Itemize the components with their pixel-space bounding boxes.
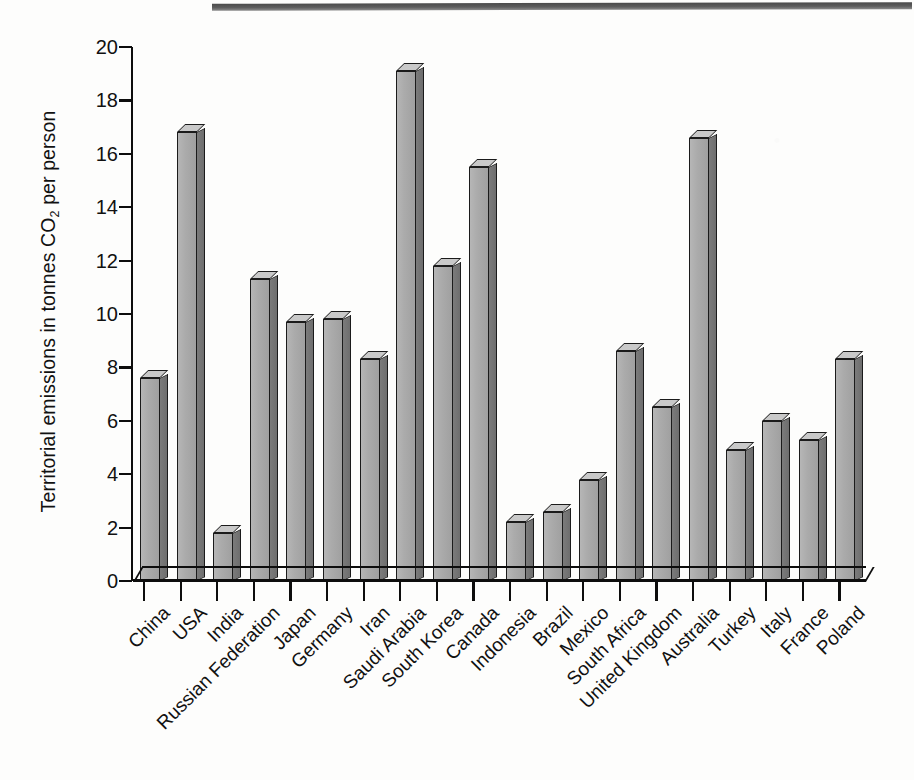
- bar-side-face: [709, 134, 717, 581]
- y-tick-label-14: 14: [72, 197, 118, 217]
- bar-front-face: [286, 322, 306, 581]
- y-axis-tick-labels: 20181614121086420: [62, 0, 118, 600]
- y-tick-label-4: 4: [72, 464, 118, 484]
- bar: [360, 359, 380, 581]
- bar-front-face: [360, 359, 380, 581]
- bar-front-face: [433, 266, 453, 581]
- bar: [689, 138, 709, 581]
- bar: [250, 279, 270, 581]
- bar-side-face: [489, 163, 497, 581]
- y-tick-label-0: 0: [72, 571, 118, 591]
- y-tick-12: [119, 260, 132, 262]
- bar-side-face: [197, 129, 205, 581]
- bar: [177, 132, 197, 581]
- y-tick-label-6: 6: [72, 411, 118, 431]
- bar-side-face: [380, 355, 388, 581]
- bar-side-face: [819, 436, 827, 581]
- bar-side-face: [416, 67, 424, 581]
- bar-side-face: [270, 275, 278, 581]
- bar-front-face: [177, 132, 197, 581]
- y-tick-label-18: 18: [72, 90, 118, 110]
- y-tick-label-12: 12: [72, 251, 118, 271]
- y-tick-18: [119, 99, 132, 101]
- y-tick-label-10: 10: [72, 304, 118, 324]
- bar-chart: Territorial emissions in tonnes CO2 per …: [0, 0, 914, 780]
- bar-front-face: [250, 279, 270, 581]
- bar: [396, 71, 416, 581]
- bar-side-face: [855, 355, 863, 581]
- bar-side-face: [160, 374, 168, 581]
- x-axis-labels: ChinaUSAIndiaRussian FederationJapanGerm…: [0, 596, 914, 780]
- bar: [433, 266, 453, 581]
- bar-front-face: [140, 378, 160, 581]
- bar-front-face: [689, 138, 709, 581]
- y-tick-14: [119, 206, 132, 208]
- bar-front-face: [835, 359, 855, 581]
- bar-side-face: [782, 417, 790, 581]
- y-tick-10: [119, 313, 132, 315]
- bar: [140, 378, 160, 581]
- y-tick-label-16: 16: [72, 144, 118, 164]
- y-tick-16: [119, 153, 132, 155]
- y-tick-20: [119, 46, 132, 48]
- bar-side-face: [636, 347, 644, 581]
- bar: [835, 359, 855, 581]
- bar-side-face: [453, 262, 461, 581]
- y-tick-8: [119, 366, 132, 368]
- plot-area: [133, 40, 863, 581]
- y-axis-title-before: Territorial emissions in tonnes CO: [37, 217, 59, 512]
- y-tick-0: [119, 580, 132, 582]
- bar-side-face: [672, 404, 680, 581]
- bar-front-face: [396, 71, 416, 581]
- y-tick-label-8: 8: [72, 357, 118, 377]
- bar-front-face: [469, 167, 489, 581]
- y-tick-6: [119, 420, 132, 422]
- bar-front-face: [616, 351, 636, 581]
- bar: [469, 167, 489, 581]
- y-axis-title-after: per person: [37, 111, 59, 211]
- bar: [652, 407, 672, 581]
- y-tick-2: [119, 527, 132, 529]
- bar-side-face: [306, 318, 314, 581]
- y-tick-4: [119, 473, 132, 475]
- bar-front-face: [652, 407, 672, 581]
- x-axis-label-text: China: [124, 602, 175, 653]
- bar: [799, 440, 819, 582]
- bar: [286, 322, 306, 581]
- bar: [616, 351, 636, 581]
- y-axis-title-subscript: 2: [48, 210, 62, 217]
- y-tick-label-20: 20: [72, 37, 118, 57]
- y-tick-label-2: 2: [72, 518, 118, 538]
- bar-front-face: [799, 440, 819, 582]
- y-axis-title: Territorial emissions in tonnes CO2 per …: [37, 52, 60, 572]
